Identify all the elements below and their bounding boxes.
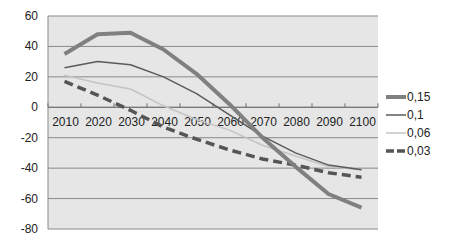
legend-label: 0,15 — [407, 90, 431, 104]
x-tick-label: 2010 — [52, 115, 79, 129]
x-tick-label: 2020 — [85, 115, 112, 129]
x-tick-label: 2090 — [316, 115, 343, 129]
legend-label: 0,06 — [407, 126, 431, 140]
y-axis-tick-labels: 6040200-20-40-60-80 — [21, 9, 39, 236]
legend-label: 0,03 — [407, 144, 431, 158]
x-tick-label: 2080 — [283, 115, 310, 129]
line-chart: 6040200-20-40-60-80 20102020203020402050… — [0, 0, 450, 240]
legend-label: 0,1 — [407, 108, 424, 122]
x-tick-label: 2100 — [349, 115, 376, 129]
y-tick-label: -40 — [21, 161, 39, 175]
legend: 0,150,10,060,03 — [386, 90, 431, 158]
y-tick-label: 60 — [25, 9, 39, 23]
y-tick-label: -80 — [21, 222, 39, 236]
y-tick-label: -20 — [21, 131, 39, 145]
y-tick-label: 0 — [31, 100, 38, 114]
y-tick-label: 40 — [25, 39, 39, 53]
y-tick-label: 20 — [25, 70, 39, 84]
y-tick-label: -60 — [21, 192, 39, 206]
